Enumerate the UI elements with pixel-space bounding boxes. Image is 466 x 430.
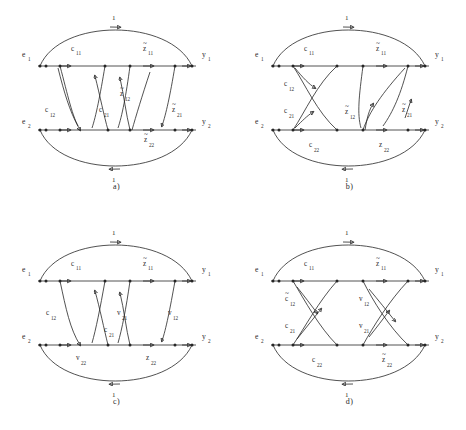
svg-text:21: 21 [407, 112, 413, 118]
terminal-y2-sub: 2 [441, 123, 444, 129]
node-dot [45, 344, 48, 347]
svg-text:12: 12 [50, 112, 56, 118]
svg-text:12: 12 [125, 96, 131, 102]
node-dot [39, 65, 42, 68]
svg-text:21: 21 [104, 112, 110, 118]
node-dot [129, 344, 132, 347]
node-dot [107, 129, 110, 132]
arc-bottom-unity [40, 345, 192, 381]
branch-d-right-b [363, 281, 408, 345]
node-dot [407, 280, 410, 283]
svg-text:c: c [285, 322, 288, 330]
arc-top-unity [40, 245, 192, 281]
svg-text:11: 11 [381, 265, 386, 271]
node-dot [424, 280, 427, 283]
terminal-e2-sub: 2 [28, 123, 31, 129]
terminal-e1: e [22, 265, 26, 274]
node-dot [278, 129, 281, 132]
label-top-unity: 1 [112, 229, 116, 237]
panel-a: e 1 e 2 y 1 y 2 1 1 c11 z~11 c12 c21 z~1… [0, 0, 233, 215]
node-dot [272, 129, 275, 132]
svg-text:~: ~ [382, 351, 386, 359]
node-dot [292, 129, 295, 132]
svg-text:c: c [284, 80, 287, 88]
panel-c: e 1 e 2 y 1 y 2 1 1 c11 z~11 c12 c21 v21… [0, 215, 233, 430]
terminal-y1: y [435, 50, 439, 59]
node-dot [174, 65, 177, 68]
branch-label-c11: c11 [71, 260, 81, 271]
branch-c21-upper [92, 66, 105, 128]
terminal-y1: y [202, 265, 206, 274]
svg-text:22: 22 [151, 360, 157, 366]
svg-text:12: 12 [51, 315, 57, 321]
branch-label-z12: z~12 [345, 103, 356, 120]
node-dot [424, 65, 427, 68]
svg-text:11: 11 [381, 50, 386, 56]
panel-d-caption: d) [233, 397, 466, 406]
branch-label-z22: z22 [146, 354, 157, 366]
arc-bottom-unity [273, 345, 425, 381]
terminal-e2: e [255, 332, 259, 341]
terminal-e1-sub: 1 [261, 56, 264, 62]
node-dot [272, 344, 275, 347]
terminal-y1-sub: 1 [208, 56, 211, 62]
branch-label-z11: z~11 [376, 255, 386, 271]
node-dot [59, 65, 62, 68]
node-dot [129, 65, 132, 68]
panel-b: e 1 e 2 y 1 y 2 1 1 c11 z~11 c12 c21 z~1… [233, 0, 466, 215]
branch-b-right-c [383, 66, 408, 126]
branch-label-v21: v21 [359, 322, 370, 334]
branch-c21-arrow [295, 112, 313, 128]
node-dot [424, 344, 427, 347]
node-dot [39, 280, 42, 283]
svg-text:11: 11 [76, 265, 81, 271]
terminal-y2: y [435, 117, 439, 126]
svg-text:22: 22 [384, 147, 390, 153]
node-dot [292, 65, 295, 68]
panel-c-caption: c) [0, 397, 233, 406]
svg-text:11: 11 [309, 265, 314, 271]
branch-b-right-b [363, 68, 405, 130]
svg-text:v: v [76, 354, 80, 362]
branch-label-z21: z~21 [172, 101, 183, 118]
node-dot [336, 129, 339, 132]
node-dot [272, 65, 275, 68]
node-dot [59, 280, 62, 283]
figure-panel-grid: e 1 e 2 y 1 y 2 1 1 c11 z~11 c12 c21 z~1… [0, 0, 466, 430]
node-dot [424, 129, 427, 132]
branch-label-c12: c12 [284, 80, 295, 92]
terminal-e2: e [255, 117, 259, 126]
svg-text:c: c [104, 326, 107, 334]
svg-text:21: 21 [364, 328, 370, 334]
svg-text:v: v [117, 309, 121, 317]
node-dot [104, 65, 107, 68]
node-dot [336, 344, 339, 347]
svg-text:~: ~ [402, 101, 406, 109]
branch-label-z11: z~11 [376, 40, 386, 56]
terminal-y2-sub: 2 [441, 338, 444, 344]
svg-text:21: 21 [109, 332, 115, 338]
branch-label-c21: c21 [285, 322, 296, 334]
branch-label-c21: c21 [284, 107, 295, 119]
terminal-y1-sub: 1 [441, 271, 444, 277]
panel-b-caption: b) [233, 182, 466, 191]
terminal-e2: e [22, 117, 26, 126]
arc-bottom-unity [273, 130, 425, 166]
node-dot [292, 280, 295, 283]
branch-label-z11: z~11 [143, 40, 153, 56]
label-top-unity: 1 [345, 229, 349, 237]
branch-label-v12: v12 [359, 295, 370, 307]
svg-text:v: v [168, 309, 172, 317]
svg-text:c: c [71, 260, 74, 268]
svg-text:~: ~ [285, 290, 289, 298]
node-dot [278, 65, 281, 68]
branch-label-c12: c12 [46, 309, 57, 321]
node-dot [104, 280, 107, 283]
branch-z21-upper [132, 72, 150, 130]
svg-text:12: 12 [173, 315, 179, 321]
node-dot [39, 344, 42, 347]
terminal-y2: y [435, 332, 439, 341]
panel-a-caption: a) [0, 182, 233, 191]
node-dot [45, 65, 48, 68]
node-dot [191, 129, 194, 132]
